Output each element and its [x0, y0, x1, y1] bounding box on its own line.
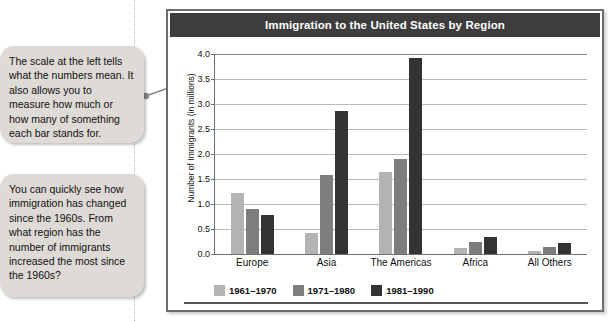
y-tick-label: 3.0 [197, 99, 210, 109]
bar-group-africa: Africa [438, 54, 512, 254]
y-tick-label: 1.5 [197, 174, 210, 184]
bar [335, 111, 348, 254]
legend-swatch-icon [293, 285, 304, 296]
callout-scale-explanation: The scale at the left tells what the num… [0, 46, 144, 143]
x-axis-category-label: Africa [438, 257, 512, 268]
bar [261, 215, 274, 254]
chart-body: Number of Immigrants (in millions) 0.00.… [170, 37, 600, 308]
bar [394, 159, 407, 255]
bar-group-europe: Europe [215, 54, 289, 254]
bar [469, 242, 482, 255]
y-tick-label: 2.5 [197, 124, 210, 134]
callout-text: The scale at the left tells what the num… [9, 55, 133, 139]
x-axis-category-label: Europe [215, 257, 289, 268]
legend-swatch-icon [371, 285, 382, 296]
bar-group-asia: Asia [289, 54, 363, 254]
y-tick-label: 3.5 [197, 74, 210, 84]
bar [409, 58, 422, 254]
bar [231, 193, 244, 255]
x-axis-category-label: Asia [289, 257, 363, 268]
chart-title-bar: Immigration to the United States by Regi… [170, 13, 600, 37]
bar [528, 251, 541, 254]
legend-item: 1971–1980 [293, 285, 356, 296]
legend-item: 1981–1990 [371, 285, 434, 296]
page-title: Immigration to the United States by Regi… [265, 19, 505, 31]
bar [558, 243, 571, 254]
bar [246, 209, 259, 254]
bar-group-all-others: All Others [513, 54, 587, 254]
y-tick-label: 2.0 [197, 149, 210, 159]
y-tick-label: 1.0 [197, 199, 210, 209]
legend-divider [184, 302, 588, 304]
legend-swatch-icon [214, 285, 225, 296]
y-tick-label: 0.5 [197, 224, 210, 234]
bar [305, 233, 318, 255]
legend-label: 1981–1990 [386, 285, 434, 296]
y-axis-label: Number of Immigrants (in millions) [186, 48, 196, 228]
chart-legend: 1961–19701971–19801981–1990 [214, 285, 434, 296]
callout-text: You can quickly see how immigration has … [9, 183, 126, 281]
x-axis-category-label: The Americas [364, 257, 438, 268]
bar [379, 172, 392, 255]
bar [320, 175, 333, 255]
bar [543, 247, 556, 255]
y-tick-label: 0.0 [197, 249, 210, 259]
legend-label: 1971–1980 [308, 285, 356, 296]
y-tick-mark [211, 254, 215, 255]
legend-label: 1961–1970 [229, 285, 277, 296]
bar-group-the-americas: The Americas [364, 54, 438, 254]
bar [454, 248, 467, 255]
page-root: The scale at the left tells what the num… [0, 0, 611, 321]
y-tick-label: 4.0 [197, 49, 210, 59]
callout-question: You can quickly see how immigration has … [0, 174, 144, 297]
legend-item: 1961–1970 [214, 285, 277, 296]
chart-panel: Immigration to the United States by Regi… [166, 9, 604, 312]
plot-area: 0.00.51.01.52.02.53.03.54.0 EuropeAsiaTh… [214, 54, 587, 255]
x-axis-category-label: All Others [513, 257, 587, 268]
bar [484, 237, 497, 255]
